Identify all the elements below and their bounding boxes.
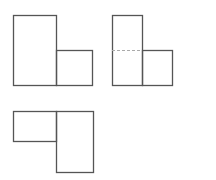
- diagram-canvas: [0, 0, 216, 180]
- rectangle-1: [14, 16, 57, 86]
- rectangle-2: [143, 51, 173, 86]
- rectangle-1: [14, 112, 57, 142]
- figure-3: [14, 112, 94, 173]
- rectangle-2: [57, 112, 94, 173]
- figure-1: [14, 16, 93, 86]
- rectangle-2: [57, 51, 93, 86]
- figure-2: [112, 16, 173, 86]
